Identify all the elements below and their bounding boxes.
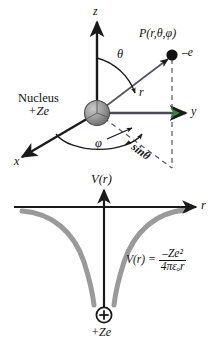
z-axis-label: z — [93, 5, 98, 17]
charge-symbol-label: +Ze — [91, 326, 111, 338]
equation-fraction: –Ze² 4πεₒr — [159, 248, 187, 272]
nucleus-label: Nucleus +Ze — [18, 92, 59, 117]
v-axis-label: V(r) — [91, 173, 112, 186]
potential-curve-left — [22, 211, 94, 305]
azimuthal-angle-label: φ — [95, 137, 102, 150]
potential-equation: V(r) = –Ze² 4πεₒr — [126, 248, 186, 272]
electron-point — [166, 49, 177, 60]
polar-angle-label: θ — [117, 48, 123, 61]
y-axis-label: y — [191, 105, 196, 117]
nucleus-sphere — [85, 101, 110, 126]
positive-charge-symbol — [96, 307, 111, 322]
electron-point-label: P(r,θ,φ) — [139, 27, 176, 39]
electron-charge-label: –e — [182, 47, 193, 59]
equation-numerator: –Ze² — [159, 248, 187, 260]
equation-denominator: 4πεₒr — [159, 260, 187, 273]
radial-vector-label: r — [139, 86, 144, 98]
nucleus-charge-label: +Ze — [28, 104, 49, 118]
r-axis-label: r — [201, 199, 206, 212]
equation-lhs: V(r) = — [126, 253, 156, 265]
x-axis-label: x — [14, 155, 19, 167]
